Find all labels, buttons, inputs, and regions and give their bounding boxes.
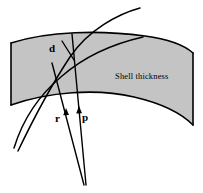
label-p: p — [82, 111, 88, 123]
label-shell-thickness: Shell thickness — [115, 71, 168, 81]
diagram-canvas: d r p Shell thickness — [0, 0, 203, 193]
shell-thickness-diagram: d r p Shell thickness — [0, 0, 203, 193]
label-d: d — [49, 42, 55, 54]
label-r: r — [55, 112, 60, 124]
